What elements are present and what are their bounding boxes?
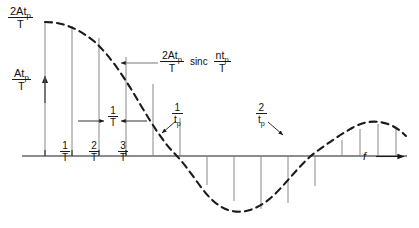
envelope-coef-numerator: 2At xyxy=(162,49,178,61)
zero1-numerator: 1 xyxy=(172,103,183,114)
x-axis-ticks xyxy=(45,150,126,156)
second-zero-crossing-label: 2 tp xyxy=(256,103,267,125)
peak-numerator-subscript: p xyxy=(27,11,31,20)
x-tick-label-1-over-T: 1 T xyxy=(60,141,70,163)
envelope-expression-label: 2Atp T sinc ntp T xyxy=(160,50,231,73)
half-numerator: At xyxy=(14,67,24,79)
sinc-spectrum-figure: 2Atp T Atp T 2Atp T sinc ntp T 1 T 2 T xyxy=(0,0,419,228)
line-spacing-label: 1 T xyxy=(108,106,118,128)
tick3-numerator: 3 xyxy=(118,141,128,152)
peak-numerator: 2At xyxy=(10,5,27,17)
spectrum-plot xyxy=(0,0,419,228)
half-numerator-subscript: p xyxy=(24,73,28,82)
zero2-numerator: 2 xyxy=(256,103,267,114)
tick2-numerator: 2 xyxy=(89,141,99,152)
spectral-lines-negative-lobe xyxy=(207,156,315,209)
spacing-denominator: T xyxy=(108,117,118,128)
envelope-peak-label: 2Atp T xyxy=(8,6,33,30)
tick3-denominator: T xyxy=(118,152,128,163)
first-zero-crossing-label: 1 tp xyxy=(172,103,183,125)
envelope-coef-numerator-subscript: p xyxy=(178,55,182,64)
tick1-numerator: 1 xyxy=(60,141,70,152)
amplitude-axis-label: Atp T xyxy=(12,68,31,92)
tick1-denominator: T xyxy=(60,152,70,163)
spacing-numerator: 1 xyxy=(108,106,118,117)
x-tick-label-2-over-T: 2 T xyxy=(89,141,99,163)
x-axis-label-f: f xyxy=(363,151,366,162)
sinc-function-name: sinc xyxy=(187,57,211,67)
zero1-denominator-subscript: p xyxy=(177,119,181,128)
zero2-denominator-subscript: p xyxy=(261,119,265,128)
tick2-denominator: T xyxy=(89,152,99,163)
zero2-callout-leader xyxy=(268,122,283,135)
x-tick-label-3-over-T: 3 T xyxy=(118,141,128,163)
